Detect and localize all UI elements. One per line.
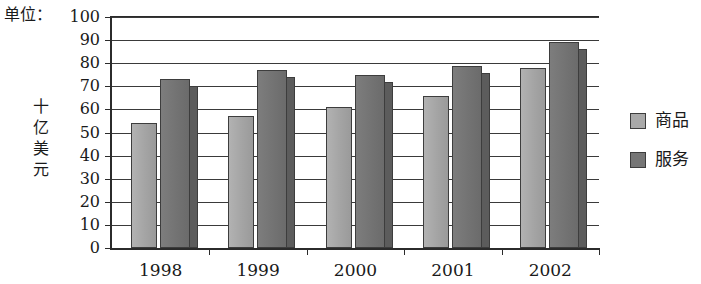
y-axis-tick-label: 10 bbox=[56, 217, 100, 233]
y-axis-tick bbox=[105, 40, 112, 41]
legend-item-services: 服务 bbox=[630, 151, 689, 168]
y-axis-title: 十 亿 美 元 bbox=[30, 96, 52, 180]
bar-goods bbox=[520, 68, 546, 248]
bar-services bbox=[549, 42, 579, 248]
bar-services-side-face bbox=[189, 86, 198, 248]
y-axis-title-char: 美 bbox=[30, 138, 52, 159]
y-axis-tick bbox=[105, 109, 112, 110]
bar-goods bbox=[131, 123, 157, 248]
legend-label: 服务 bbox=[655, 151, 689, 168]
y-axis-tick bbox=[105, 225, 112, 226]
y-axis-tick bbox=[105, 17, 112, 18]
bar-services-side-face bbox=[481, 73, 490, 248]
y-axis-title-char: 亿 bbox=[30, 117, 52, 138]
y-axis-tick-label: 100 bbox=[56, 9, 100, 25]
x-axis-tick bbox=[599, 248, 600, 255]
y-axis-title-char: 元 bbox=[30, 159, 52, 180]
gridline bbox=[112, 17, 599, 18]
x-axis-tick bbox=[209, 248, 210, 255]
y-axis-tick bbox=[105, 202, 112, 203]
chart-legend: 商品 服务 bbox=[630, 112, 689, 190]
x-axis-tick bbox=[307, 248, 308, 255]
x-axis-tick-label: 2001 bbox=[408, 261, 498, 279]
gridline bbox=[112, 40, 599, 41]
x-axis-tick-label: 1999 bbox=[213, 261, 303, 279]
bar-services-side-face bbox=[286, 77, 295, 248]
y-axis-tick bbox=[105, 86, 112, 87]
x-axis-tick-label: 1998 bbox=[116, 261, 206, 279]
bar-services-side-face bbox=[384, 82, 393, 248]
y-axis-tick-label: 60 bbox=[56, 101, 100, 117]
bar-services-side-face bbox=[578, 49, 587, 248]
bar-services bbox=[355, 75, 385, 248]
x-axis-tick bbox=[404, 248, 405, 255]
x-axis-tick-label: 2002 bbox=[505, 261, 595, 279]
y-axis-title-char: 十 bbox=[30, 96, 52, 117]
legend-swatch-icon bbox=[630, 152, 646, 168]
y-axis-tick bbox=[105, 179, 112, 180]
y-axis-tick-label: 80 bbox=[56, 55, 100, 71]
bar-chart: 单位： 十 亿 美 元 0102030405060708090100199819… bbox=[0, 0, 701, 284]
plot-area: 0102030405060708090100199819992000200120… bbox=[110, 17, 599, 250]
y-axis-tick-label: 0 bbox=[56, 240, 100, 256]
unit-caption: 单位： bbox=[4, 6, 52, 24]
y-axis-tick-label: 90 bbox=[56, 32, 100, 48]
gridline bbox=[112, 63, 599, 64]
y-axis-tick-label: 50 bbox=[56, 125, 100, 141]
bar-services bbox=[452, 66, 482, 248]
bar-services bbox=[160, 79, 190, 248]
bar-goods bbox=[228, 116, 254, 248]
y-axis-tick bbox=[105, 156, 112, 157]
y-axis-tick bbox=[105, 133, 112, 134]
y-axis-tick-label: 70 bbox=[56, 78, 100, 94]
bar-goods bbox=[326, 107, 352, 248]
y-axis-tick-label: 40 bbox=[56, 148, 100, 164]
x-axis-tick-label: 2000 bbox=[311, 261, 401, 279]
x-axis-tick bbox=[502, 248, 503, 255]
bar-services bbox=[257, 70, 287, 248]
legend-item-goods: 商品 bbox=[630, 112, 689, 129]
legend-swatch-icon bbox=[630, 113, 646, 129]
y-axis-tick-label: 20 bbox=[56, 194, 100, 210]
y-axis-tick-label: 30 bbox=[56, 171, 100, 187]
bar-goods bbox=[423, 96, 449, 248]
y-axis-tick bbox=[105, 248, 112, 249]
y-axis-tick bbox=[105, 63, 112, 64]
legend-label: 商品 bbox=[655, 112, 689, 129]
